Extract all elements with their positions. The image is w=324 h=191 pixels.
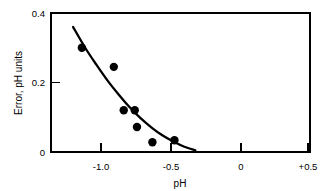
frame-border xyxy=(51,13,310,152)
y-tick-label-0: 0 xyxy=(40,147,45,158)
fit-curve-layer xyxy=(73,27,195,150)
data-point xyxy=(78,44,86,52)
y-axis-title: Error, pH units xyxy=(13,51,24,115)
y-tick-label-0.4: 0.4 xyxy=(32,8,45,19)
data-point xyxy=(148,138,156,146)
x-axis-ticks xyxy=(101,143,308,152)
fit-curve xyxy=(73,27,195,150)
data-point xyxy=(133,123,141,131)
x-tick-label--0.5: -0.5 xyxy=(163,161,179,172)
y-axis-tick-labels: 0.4 0.2 0 xyxy=(32,8,45,158)
chart-figure: 0.4 0.2 0 -1.0 -0.5 0 +0.5 pH Error, pH … xyxy=(0,0,324,191)
x-tick-label--1.0: -1.0 xyxy=(93,161,109,172)
plot-frame xyxy=(51,13,310,152)
scatter-plot: 0.4 0.2 0 -1.0 -0.5 0 +0.5 pH Error, pH … xyxy=(0,0,324,191)
x-axis-tick-labels: -1.0 -0.5 0 +0.5 xyxy=(93,161,318,172)
y-axis-ticks xyxy=(51,13,60,83)
data-point xyxy=(131,106,139,114)
x-tick-label-0.5: +0.5 xyxy=(299,161,318,172)
data-point xyxy=(170,136,178,144)
data-point xyxy=(120,106,128,114)
y-tick-label-0.2: 0.2 xyxy=(32,77,45,88)
x-tick-label-0: 0 xyxy=(238,161,243,172)
x-axis-title: pH xyxy=(174,178,187,189)
data-point xyxy=(110,63,118,71)
